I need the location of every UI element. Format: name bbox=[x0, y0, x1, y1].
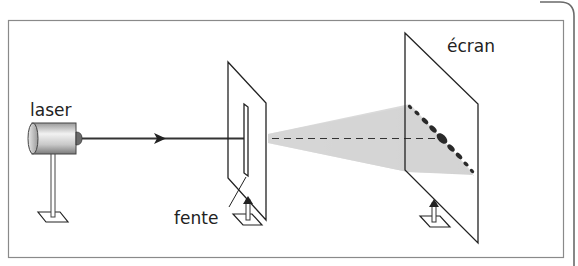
laser-stand-pole bbox=[51, 152, 55, 217]
laser-body bbox=[32, 123, 76, 154]
laser-nozzle bbox=[76, 132, 82, 145]
slit bbox=[244, 104, 248, 176]
laser-back-cap bbox=[28, 123, 38, 154]
laser-label: laser bbox=[30, 100, 71, 120]
slit-label: fente bbox=[174, 208, 218, 228]
screen-label: écran bbox=[447, 36, 495, 56]
diffraction-diagram: laser fente bbox=[0, 0, 578, 266]
